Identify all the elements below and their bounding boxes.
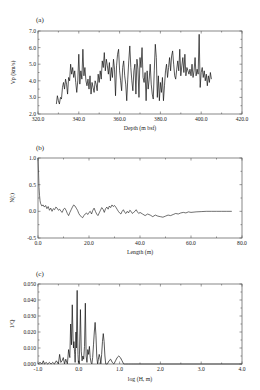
y-tick-label: 0.0: [29, 208, 36, 214]
panel-c-xlabel: log (H, m): [128, 376, 152, 383]
panel-a-ylabel: Vp (km/s): [10, 61, 17, 85]
x-tick-label: 0.0: [75, 366, 82, 372]
y-tick-label: 2.0: [29, 111, 36, 117]
panel-a-ticks: 320.0340.0360.0380.0400.0420.02.03.04.05…: [29, 28, 248, 122]
panel-b: (b) N(t) Length (m) 0.020.040.060.080.0-…: [9, 144, 247, 256]
y-tick-label: 6.0: [29, 45, 36, 51]
panel-a-label: (a): [36, 16, 44, 24]
y-tick-label: 0.000: [23, 361, 36, 367]
x-tick-label: 2.0: [157, 366, 164, 372]
x-tick-label: 1.0: [116, 366, 123, 372]
y-tick-label: 1.0: [29, 155, 36, 161]
panel-b-correlation-series: [38, 158, 232, 218]
panel-c-label: (c): [36, 270, 44, 278]
y-tick-label: 4.0: [29, 78, 36, 84]
figure: (a) Vp (km/s) Depth (m bsf) 320.0340.036…: [0, 0, 260, 390]
x-tick-label: 420.0: [236, 116, 249, 122]
panel-a: (a) Vp (km/s) Depth (m bsf) 320.0340.036…: [10, 16, 248, 132]
panel-b-ticks: 0.020.040.060.080.0-0.50.00.51.0: [27, 155, 247, 246]
x-tick-label: 400.0: [195, 116, 208, 122]
panel-b-ylabel: N(t): [9, 193, 16, 203]
x-tick-label: 80.0: [237, 240, 247, 246]
x-tick-label: 360.0: [113, 116, 126, 122]
x-tick-label: 4.0: [239, 366, 246, 372]
y-tick-label: 0.030: [23, 313, 36, 319]
y-tick-label: 0.020: [23, 329, 36, 335]
x-tick-label: 20.0: [84, 240, 94, 246]
y-tick-label: 7.0: [29, 28, 36, 34]
y-tick-label: 3.0: [29, 94, 36, 100]
panel-c-ylabel: 1/Q: [9, 319, 15, 329]
y-tick-label: 0.050: [23, 281, 36, 287]
y-tick-label: -0.5: [27, 235, 36, 241]
panel-b-xlabel: Length (m): [127, 249, 153, 256]
x-tick-label: 380.0: [154, 116, 167, 122]
panel-a-frame: [38, 31, 242, 114]
panel-c: (c) 1/Q log (H, m) -1.00.01.02.03.04.00.…: [9, 270, 246, 383]
panel-a-vp-series: [56, 34, 211, 104]
y-tick-label: 0.010: [23, 345, 36, 351]
y-tick-label: 5.0: [29, 61, 36, 67]
x-tick-label: 40.0: [135, 240, 145, 246]
x-tick-label: 60.0: [186, 240, 196, 246]
panel-c-attenuation-series: [38, 290, 242, 364]
panel-b-label: (b): [36, 144, 45, 152]
x-tick-label: 340.0: [73, 116, 86, 122]
panel-b-frame: [38, 158, 242, 238]
y-tick-label: 0.5: [29, 182, 36, 188]
panel-a-xlabel: Depth (m bsf): [124, 125, 157, 132]
y-tick-label: 0.040: [23, 297, 36, 303]
panel-c-ticks: -1.00.01.02.03.04.00.0000.0100.0200.0300…: [23, 281, 245, 372]
x-tick-label: 3.0: [198, 366, 205, 372]
